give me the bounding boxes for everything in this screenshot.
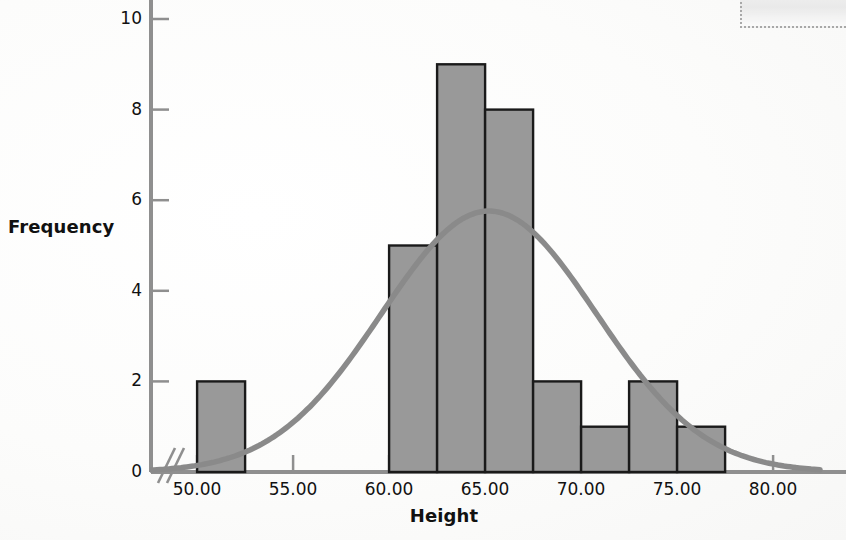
histogram-bar[interactable] xyxy=(389,246,437,473)
x-tick-label-60: 60.00 xyxy=(344,479,434,499)
y-tick-label-8: 8 xyxy=(108,99,142,119)
x-axis-title-text: Height xyxy=(410,505,478,526)
x-tick-label-65: 65.00 xyxy=(440,479,530,499)
histogram-bar[interactable] xyxy=(437,64,485,472)
plot-area xyxy=(0,0,846,540)
histogram-chart: 10 8 6 4 2 0 50.00 55.00 60.00 65.00 70.… xyxy=(0,0,846,540)
y-tick-label-0: 0 xyxy=(108,461,142,481)
histogram-bars xyxy=(197,64,725,472)
x-tick-label-50: 50.00 xyxy=(152,479,242,499)
x-axis-title: Height xyxy=(0,505,846,526)
y-tick-label-2: 2 xyxy=(108,370,142,390)
y-axis-ticks xyxy=(152,19,169,381)
x-tick-label-80: 80.00 xyxy=(728,479,818,499)
histogram-bar[interactable] xyxy=(629,381,677,472)
histogram-bar[interactable] xyxy=(533,381,581,472)
histogram-bar[interactable] xyxy=(581,427,629,472)
y-tick-label-6: 6 xyxy=(108,189,142,209)
x-tick-label-70: 70.00 xyxy=(536,479,626,499)
y-tick-label-10: 10 xyxy=(108,8,142,28)
x-tick-label-75: 75.00 xyxy=(632,479,722,499)
x-tick-label-55: 55.00 xyxy=(248,479,338,499)
histogram-bar[interactable] xyxy=(485,110,533,472)
y-tick-label-4: 4 xyxy=(108,280,142,300)
y-axis-title: Frequency xyxy=(8,216,114,237)
